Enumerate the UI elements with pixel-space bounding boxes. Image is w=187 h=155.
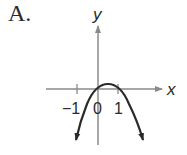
y-axis-label: y xyxy=(92,5,103,24)
parabola-curve xyxy=(76,84,108,140)
tick-label-one: 1 xyxy=(114,100,123,117)
tick-label-neg-one: −1 xyxy=(62,100,80,117)
x-axis-label: x xyxy=(166,80,176,99)
tick-label-zero: 0 xyxy=(93,100,102,117)
parabola-graph: y x −1 0 1 xyxy=(0,0,187,155)
